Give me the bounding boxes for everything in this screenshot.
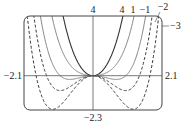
graph: 4 −2.3 −2.1 2.1 4 1 −1 −2 −3 (0, 0, 183, 124)
y-max-label: 4 (91, 4, 96, 15)
curve-label-minus-3: −3 (170, 20, 181, 31)
curve-label-1: 1 (131, 4, 136, 15)
curve-label-4: 4 (120, 4, 125, 15)
curve-label-minus-1: −1 (140, 4, 151, 15)
x-max-label: 2.1 (165, 70, 178, 81)
y-min-label: −2.3 (84, 112, 102, 123)
x-min-label: −2.1 (4, 70, 22, 81)
curve-label-minus-2: −2 (158, 1, 169, 12)
